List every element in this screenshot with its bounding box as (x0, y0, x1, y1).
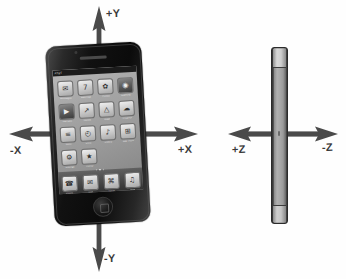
app-glyph-icon: ◴ (85, 130, 91, 137)
dock-icon-phone[interactable]: ☎ (61, 175, 78, 192)
axis-label-minus-z: -Z (322, 141, 333, 153)
app-label: Photos (102, 95, 110, 98)
app-label: Settings (65, 166, 75, 169)
app-glyph-icon: ⚙ (66, 154, 73, 161)
app-icon-camera[interactable]: ◉ (117, 77, 134, 94)
axis-label-plus-z: +Z (232, 143, 246, 155)
app-cell[interactable]: △Maps (98, 99, 115, 123)
iphone-side-view (271, 47, 288, 224)
volume-button-icon (278, 131, 280, 136)
dock-glyph-icon: ☎ (65, 180, 74, 187)
dock-icon-mail[interactable]: ✉ (82, 174, 99, 191)
axis-label-minus-y: -Y (104, 252, 116, 264)
app-icon-utilities[interactable]: ♪ (99, 124, 116, 141)
app-label: Utilities (104, 141, 112, 144)
axis-label-plus-y: +Y (106, 7, 121, 19)
app-glyph-icon: ↗ (84, 107, 90, 114)
dock-glyph-icon: ♫ (129, 176, 136, 183)
dock-label: Safari (108, 190, 115, 193)
home-screen-icon-grid: ✉Messages7Calendar✿Photos◉Camera▶YouTube… (53, 74, 142, 171)
app-glyph-icon: ✿ (102, 83, 108, 90)
phone-side-top-cap (273, 49, 286, 68)
app-glyph-icon: ☁ (123, 105, 130, 112)
app-cell[interactable]: ✿Photos (97, 76, 114, 100)
app-cell[interactable]: ✉Messages (57, 78, 74, 102)
dock-label: Phone (66, 192, 74, 194)
phone-side-bottom-cap (273, 205, 286, 222)
app-icon-calendar[interactable]: 7 (77, 79, 94, 96)
home-button-square-icon (99, 203, 108, 212)
axis-label-plus-x: +X (178, 143, 193, 155)
axis-label-minus-x: -X (10, 144, 22, 156)
app-icon-messages[interactable]: ✉ (57, 80, 74, 97)
dock-cell[interactable]: ⌘Safari (103, 171, 120, 193)
app-glyph-icon: ♪ (106, 129, 111, 136)
app-label: Calendar (81, 96, 92, 99)
app-cell[interactable]: ◴Clock (79, 123, 96, 147)
iphone-front-view: AT&T ✉Messages7Calendar✿Photos◉Camera▶Yo… (45, 41, 151, 226)
dock-icon-safari[interactable]: ⌘ (103, 173, 120, 190)
app-icon-settings[interactable]: ⚙ (61, 149, 78, 166)
app-glyph-icon: ≡ (65, 131, 71, 138)
app-label: App Store (123, 139, 135, 142)
dock-icon-ipod[interactable]: ♫ (124, 172, 141, 189)
app-icon-photos[interactable]: ✿ (97, 78, 114, 95)
app-glyph-icon: ⊞ (125, 128, 131, 135)
app-label: Clock (85, 142, 92, 145)
app-icon-youtube[interactable]: ▶ (58, 103, 75, 120)
home-button[interactable] (93, 196, 114, 217)
app-label: Messages (60, 97, 72, 100)
app-icon-clock[interactable]: ◴ (80, 125, 97, 142)
front-camera-icon (74, 51, 77, 54)
dock-label: Mail (88, 191, 93, 194)
phone-body: AT&T ✉Messages7Calendar✿Photos◉Camera▶Yo… (45, 41, 151, 226)
app-label: Notes (65, 143, 72, 146)
app-glyph-icon: ✉ (62, 85, 68, 92)
dock-glyph-icon: ⌘ (107, 178, 114, 185)
app-glyph-icon: △ (104, 106, 110, 113)
app-label: Stocks (83, 119, 91, 122)
dock-cell[interactable]: ♫iPod (124, 170, 141, 192)
app-cell[interactable]: ⚙Settings (61, 147, 78, 171)
app-label: YouTube (62, 120, 72, 123)
app-label: Weather (122, 117, 132, 120)
app-cell[interactable]: 7Calendar (77, 77, 94, 101)
app-icon-stocks[interactable]: ↗ (78, 102, 95, 119)
app-cell[interactable]: ★iTunes (81, 146, 98, 170)
app-glyph-icon: ★ (86, 153, 93, 160)
app-cell[interactable]: ⊞App Store (119, 121, 136, 145)
dock-cell[interactable]: ☎Phone (61, 173, 78, 194)
app-glyph-icon: ◉ (122, 82, 128, 89)
app-cell[interactable]: ▶YouTube (58, 101, 75, 125)
app-icon-app-store[interactable]: ⊞ (119, 123, 136, 140)
earpiece-speaker-icon (80, 55, 107, 60)
dock-cell[interactable]: ✉Mail (82, 172, 99, 194)
app-icon-itunes[interactable]: ★ (81, 148, 98, 165)
home-screen-dock: ☎Phone✉Mail⌘Safari♫iPod (58, 168, 143, 195)
app-icon-notes[interactable]: ≡ (60, 126, 77, 143)
app-icon-maps[interactable]: △ (98, 101, 115, 118)
diagram-canvas: AT&T ✉Messages7Calendar✿Photos◉Camera▶Yo… (0, 0, 346, 279)
app-cell[interactable]: ♪Utilities (99, 122, 116, 146)
dock-glyph-icon: ✉ (87, 179, 93, 186)
app-cell[interactable]: ☁Weather (118, 98, 135, 122)
phone-side-body (271, 47, 288, 224)
app-glyph-icon: ▶ (64, 108, 70, 115)
app-glyph-icon: 7 (83, 84, 88, 91)
phone-screen: AT&T ✉Messages7Calendar✿Photos◉Camera▶Yo… (52, 66, 143, 194)
app-cell[interactable]: ≡Notes (59, 124, 76, 148)
dock-label: iPod (130, 189, 135, 192)
status-carrier: AT&T (54, 70, 62, 76)
app-cell[interactable]: ◉Camera (117, 75, 134, 99)
app-cell[interactable]: ↗Stocks (78, 100, 95, 124)
app-label: Camera (121, 94, 130, 97)
app-icon-weather[interactable]: ☁ (118, 100, 135, 117)
app-label: Maps (104, 118, 110, 121)
app-label: iTunes (86, 165, 94, 168)
